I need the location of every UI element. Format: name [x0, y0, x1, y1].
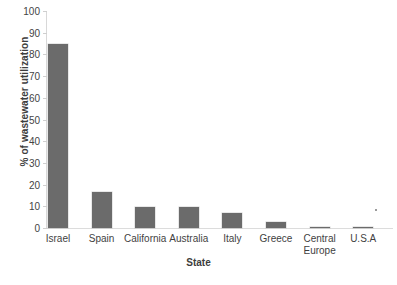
y-tick-label: 50	[29, 114, 40, 125]
bar	[266, 222, 286, 229]
y-tick-mark	[43, 54, 47, 55]
y-tick-label: 100	[23, 6, 40, 17]
y-tick-label: 70	[29, 71, 40, 82]
scan-speckle-artifact	[375, 209, 377, 211]
x-tick-label: Australia	[167, 233, 211, 245]
x-tick-label: U.S.A	[341, 233, 385, 245]
y-tick-label: 40	[29, 136, 40, 147]
bar	[310, 227, 330, 229]
y-tick-label: 90	[29, 27, 40, 38]
x-tick-label: Italy	[211, 233, 255, 245]
y-tick-mark	[43, 228, 47, 229]
bar	[222, 213, 242, 228]
y-tick-label: 20	[29, 179, 40, 190]
y-tick-mark	[43, 33, 47, 34]
bar	[179, 207, 199, 228]
bar-chart: % of wastewater utilization 010203040506…	[0, 0, 397, 285]
y-tick-label: 10	[29, 201, 40, 212]
y-tick-mark	[43, 120, 47, 121]
x-tick-label: Spain	[80, 233, 124, 245]
x-axis-line	[46, 228, 393, 229]
x-tick-label: Greece	[254, 233, 298, 245]
bar	[92, 192, 112, 228]
bar	[135, 207, 155, 228]
y-tick-label: 0	[34, 223, 40, 234]
bar	[48, 44, 68, 228]
y-tick-label: 30	[29, 157, 40, 168]
y-tick-label: 80	[29, 49, 40, 60]
x-tick-label: Israel	[36, 233, 80, 245]
y-tick-mark	[43, 206, 47, 207]
y-tick-mark	[43, 141, 47, 142]
y-axis-title: % of wastewater utilization	[19, 17, 30, 187]
y-tick-mark	[43, 11, 47, 12]
bar	[353, 227, 373, 229]
plot-area: 0102030405060708090100 IsraelSpainCalifo…	[46, 11, 393, 229]
x-tick-label: Central Europe	[298, 233, 342, 256]
x-tick-label: California	[123, 233, 167, 245]
y-tick-label: 60	[29, 92, 40, 103]
y-tick-mark	[43, 185, 47, 186]
y-tick-mark	[43, 163, 47, 164]
y-tick-mark	[43, 98, 47, 99]
x-axis-title: State	[0, 257, 397, 268]
y-tick-mark	[43, 76, 47, 77]
